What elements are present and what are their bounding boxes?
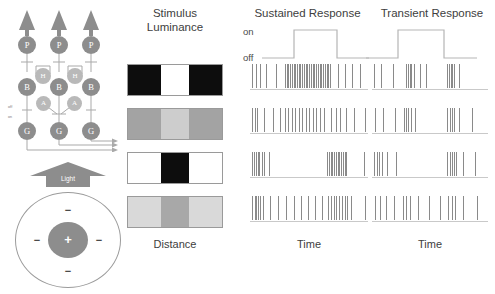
raster-baseline	[372, 221, 488, 222]
spike	[347, 196, 348, 220]
stimulus-segment-surround-left	[128, 109, 161, 139]
raster-baseline	[372, 133, 488, 134]
spike	[377, 152, 378, 176]
spike	[336, 196, 337, 220]
ganglion-cell-right: G	[82, 122, 100, 140]
transient-raster-row-2	[372, 108, 488, 134]
stimulus-bar-light-surround-mid-center	[127, 196, 223, 228]
amacrine-cell-left: A	[36, 96, 51, 111]
transient-raster-stack	[372, 64, 488, 234]
stimulus-segment-surround-right	[189, 65, 222, 95]
stimulus-segment-surround-left	[128, 65, 161, 95]
sustained-column-title: Sustained Response	[245, 6, 370, 20]
spike	[411, 64, 412, 88]
stimulus-x-axis-label: Distance	[130, 238, 220, 250]
spike	[406, 108, 407, 132]
spike	[273, 108, 274, 132]
spike	[450, 152, 451, 176]
ganglion-cell-center: G	[50, 122, 68, 140]
spike	[338, 64, 339, 88]
cell-label: P	[89, 41, 94, 50]
spike	[383, 108, 384, 132]
spike	[365, 196, 366, 220]
ganglion-cell-left: G	[18, 122, 36, 140]
cell-label: B	[24, 83, 30, 92]
spike	[306, 108, 307, 132]
spike	[472, 108, 473, 132]
spike	[456, 152, 457, 176]
spike	[264, 152, 265, 176]
spike	[260, 196, 261, 220]
cell-label: H	[40, 73, 45, 80]
spike	[309, 108, 310, 132]
cell-label: A	[72, 100, 77, 107]
retina-circuit-diagram: P P P H H B B B A A G G G off on	[0, 0, 125, 152]
spike	[447, 152, 448, 176]
spike	[302, 108, 303, 132]
spike	[459, 64, 460, 88]
step-off-label-sustained: off	[243, 52, 253, 63]
spike	[364, 152, 365, 176]
ipl-sublamina-off-label: off	[8, 105, 12, 109]
raster-baseline	[372, 89, 488, 90]
stimulus-segment-surround-right	[189, 197, 222, 227]
spike	[393, 64, 394, 88]
stimulus-segment-center	[161, 65, 188, 95]
spike	[360, 64, 361, 88]
surround-minus-sign-top: −	[58, 205, 78, 216]
spike	[454, 152, 455, 176]
spike	[252, 108, 253, 132]
spike	[286, 196, 287, 220]
transient-x-axis-label: Time	[372, 238, 488, 250]
spike	[252, 64, 253, 88]
spike	[415, 108, 416, 132]
spike	[315, 196, 316, 220]
spike	[336, 108, 337, 132]
spike	[381, 64, 382, 88]
spike	[301, 196, 302, 220]
spike	[259, 152, 260, 176]
spike	[420, 64, 421, 88]
spike	[396, 152, 397, 176]
spike	[374, 152, 375, 176]
spike	[327, 152, 328, 176]
sustained-x-axis-label: Time	[250, 238, 368, 250]
spike	[328, 196, 329, 220]
photoreceptor-cell-center: P	[50, 36, 68, 54]
transient-column-title: Transient Response	[372, 6, 492, 20]
spike	[418, 196, 419, 220]
cell-label: H	[72, 73, 77, 80]
light-direction-arrow: Light	[28, 161, 108, 189]
cell-label: B	[88, 83, 94, 92]
spike	[331, 108, 332, 132]
center-plus-sign: +	[58, 233, 78, 246]
spike	[352, 64, 353, 88]
spike	[334, 196, 335, 220]
spike	[313, 108, 314, 132]
spike	[450, 108, 451, 132]
spike	[408, 108, 409, 132]
spike	[406, 196, 407, 220]
spike	[394, 196, 395, 220]
spike	[299, 108, 300, 132]
amacrine-cell-right: A	[67, 96, 82, 111]
light-arrow-label: Light	[28, 175, 108, 182]
horizontal-cell-right: H	[67, 68, 83, 84]
stimulus-bar-dark-surround-bright-center	[127, 64, 223, 96]
sustained-raster-row-4	[250, 196, 368, 222]
spike	[320, 108, 321, 132]
raster-baseline	[250, 177, 368, 178]
spike	[264, 108, 265, 132]
stimulus-segment-surround-right	[189, 109, 222, 139]
stimulus-segment-center	[161, 197, 188, 227]
photoreceptor-cell-left: P	[18, 36, 36, 54]
spike	[452, 196, 453, 220]
spike	[414, 64, 415, 88]
sustained-raster-stack	[250, 64, 368, 234]
spike	[463, 196, 464, 220]
transient-raster-row-3	[372, 152, 488, 178]
spike	[387, 152, 388, 176]
spike	[278, 196, 279, 220]
spike	[252, 196, 253, 220]
spike	[374, 64, 375, 88]
